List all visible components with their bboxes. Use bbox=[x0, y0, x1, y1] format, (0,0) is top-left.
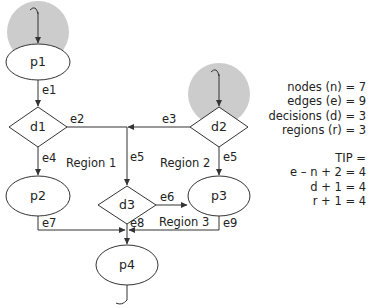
complexity-stats: nodes (n) = 7 edges (e) = 9 decisions (d… bbox=[268, 80, 366, 208]
tip-formula-3: r + 1 = 4 bbox=[268, 194, 366, 208]
label-e3: e3 bbox=[162, 112, 176, 126]
label-p3: p3 bbox=[211, 188, 227, 203]
tip-formula-1: e – n + 2 = 4 bbox=[268, 165, 366, 179]
label-e9: e9 bbox=[223, 216, 237, 230]
label-p1: p1 bbox=[30, 54, 46, 69]
label-d1: d1 bbox=[30, 119, 46, 134]
label-p2: p2 bbox=[30, 188, 46, 203]
label-e8: e8 bbox=[130, 216, 144, 230]
tip-title: TIP = bbox=[268, 151, 366, 165]
label-e5-left: e5 bbox=[130, 150, 144, 164]
stat-nodes: nodes (n) = 7 bbox=[268, 80, 366, 94]
label-region-2: Region 2 bbox=[160, 156, 210, 170]
stat-decisions: decisions (d) = 3 bbox=[268, 109, 366, 123]
label-region-1: Region 1 bbox=[66, 156, 116, 170]
label-e6: e6 bbox=[160, 190, 174, 204]
exit-squiggle-p4 bbox=[116, 300, 127, 304]
stat-edges: edges (e) = 9 bbox=[268, 94, 366, 108]
label-p4: p4 bbox=[119, 257, 135, 272]
label-d2: d2 bbox=[211, 119, 227, 134]
label-e1: e1 bbox=[42, 83, 56, 97]
stat-regions: regions (r) = 3 bbox=[268, 123, 366, 137]
label-d3: d3 bbox=[119, 197, 135, 212]
label-e2: e2 bbox=[70, 112, 84, 126]
label-e5-right: e5 bbox=[223, 150, 237, 164]
label-e7: e7 bbox=[42, 216, 56, 230]
label-region-3: Region 3 bbox=[159, 215, 209, 229]
tip-formula-2: d + 1 = 4 bbox=[268, 180, 366, 194]
label-e4: e4 bbox=[42, 151, 56, 165]
